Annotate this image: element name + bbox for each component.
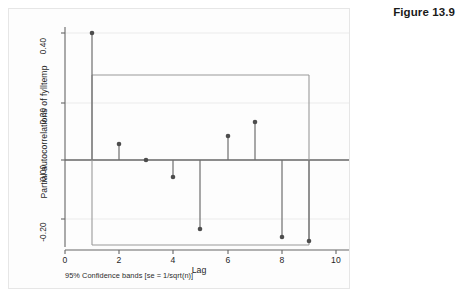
x-tick-label-5: 10 bbox=[326, 255, 346, 265]
data-point-lag-3 bbox=[144, 158, 149, 163]
x-tick-label-3: 6 bbox=[218, 255, 238, 265]
data-point-lag-1 bbox=[90, 31, 95, 36]
data-point-lag-6 bbox=[226, 134, 231, 139]
pacf-chart: Partial autocorrelations of fylltemp 0.4… bbox=[9, 9, 351, 290]
figure-panel: Partial autocorrelations of fylltemp 0.4… bbox=[8, 8, 350, 289]
page-root: Figure 13.9 Partial autocorrelations of … bbox=[0, 0, 461, 297]
confidence-band-note: 95% Confidence bands [se = 1/sqrt(n)] bbox=[65, 271, 193, 280]
gridlines bbox=[65, 33, 349, 219]
x-tick-label-2: 4 bbox=[163, 255, 183, 265]
data-point-lag-4 bbox=[171, 175, 176, 180]
data-point-lag-8 bbox=[280, 235, 285, 240]
x-tick-label-1: 2 bbox=[109, 255, 129, 265]
data-point-lag-2 bbox=[117, 142, 122, 147]
stems bbox=[92, 33, 309, 241]
y-axis-ticks bbox=[61, 33, 65, 219]
data-point-lag-9 bbox=[307, 239, 312, 244]
data-point-lag-7 bbox=[253, 120, 258, 125]
x-axis-ticks bbox=[65, 250, 336, 254]
x-tick-label-0: 0 bbox=[55, 255, 75, 265]
data-point-lag-5 bbox=[198, 227, 203, 232]
figure-number-label: Figure 13.9 bbox=[393, 6, 455, 18]
plot-canvas bbox=[9, 9, 351, 290]
x-tick-label-4: 8 bbox=[272, 255, 292, 265]
